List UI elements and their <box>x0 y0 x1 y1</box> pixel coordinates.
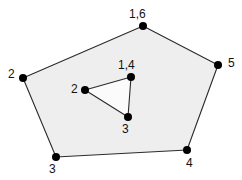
diagram-canvas: 1,6 2 3 4 5 1,4 2 3 <box>0 0 242 180</box>
vertex-dot-outer-2 <box>19 74 27 82</box>
vertex-label-inner-2: 2 <box>71 83 78 95</box>
vertex-label-outer-4: 4 <box>186 157 193 169</box>
vertex-label-inner-1: 1,4 <box>118 59 135 71</box>
vertex-dot-inner-3 <box>124 113 132 121</box>
vertex-label-inner-3: 3 <box>122 123 129 135</box>
vertex-dot-outer-3 <box>52 153 60 161</box>
vertex-dot-outer-5 <box>214 61 222 69</box>
vertex-dot-inner-1 <box>127 73 135 81</box>
vertex-dot-outer-4 <box>183 146 191 154</box>
vertex-dot-inner-2 <box>81 86 89 94</box>
vertex-dot-outer-1 <box>139 22 147 30</box>
vertex-label-outer-3: 3 <box>49 163 56 175</box>
vertex-label-outer-1: 1,6 <box>129 8 146 20</box>
vertex-label-outer-5: 5 <box>228 57 235 69</box>
figure-svg <box>0 0 242 180</box>
vertex-label-outer-2: 2 <box>8 68 15 80</box>
